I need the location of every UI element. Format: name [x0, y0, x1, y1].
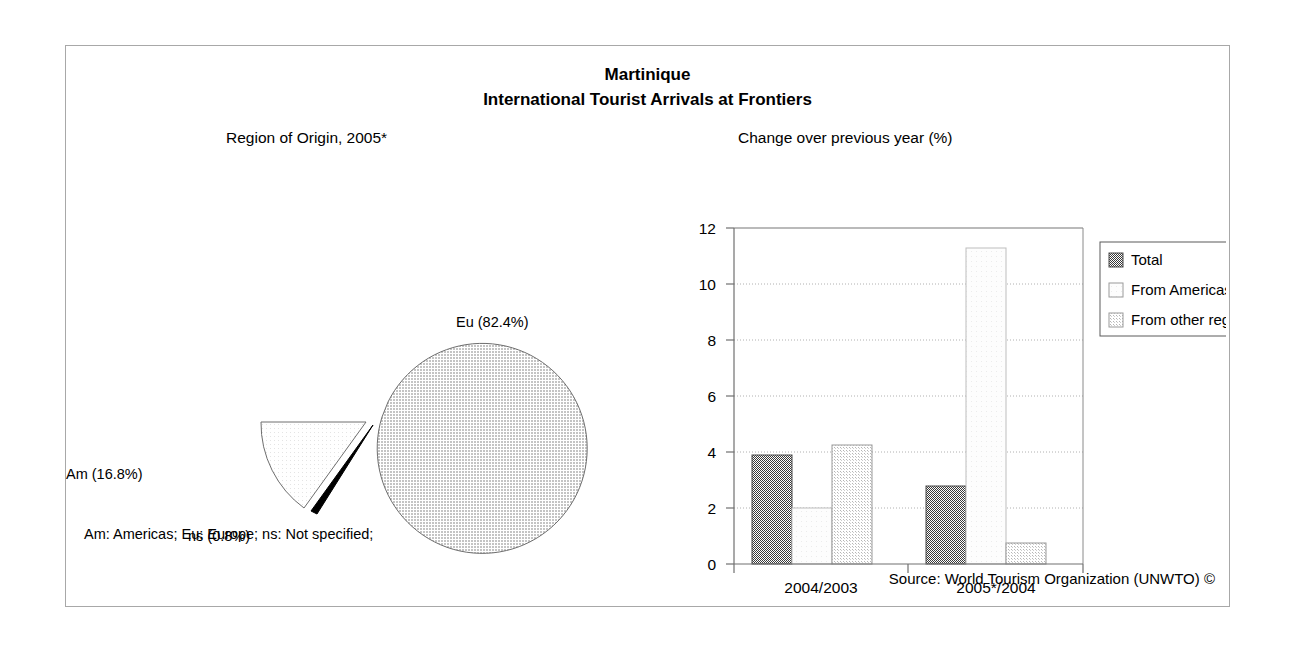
bar-chart-graphic: 0 2 4 6 8 10 12 2004/2003 2005*/2004 Tot…: [666, 156, 1226, 596]
pie-slice-eu: [377, 343, 587, 553]
y-axis-ticks: [726, 228, 734, 564]
bar-group-2004-2003: [752, 445, 872, 564]
pie-label-am: Am (16.8%): [66, 466, 143, 482]
chart-title-line-1: Martinique: [66, 65, 1229, 85]
legend-label-total: Total: [1131, 251, 1163, 268]
y-tick-label-6: 6: [707, 388, 716, 405]
legend-label-from-americas: From Americas: [1131, 281, 1226, 298]
bar-chart-panel: 0 2 4 6 8 10 12 2004/2003 2005*/2004 Tot…: [666, 156, 1226, 596]
y-tick-label-8: 8: [707, 332, 716, 349]
bar-group-2005-2004: [926, 248, 1046, 564]
chart-title-line-2: International Tourist Arrivals at Fronti…: [66, 90, 1229, 110]
y-tick-label-10: 10: [699, 276, 717, 293]
figure-frame: Martinique International Tourist Arrival…: [65, 45, 1230, 607]
y-tick-label-0: 0: [707, 556, 716, 573]
legend-swatch-from-americas: [1109, 283, 1123, 297]
y-tick-label-4: 4: [707, 444, 716, 461]
abbreviation-note: Am: Americas; Eu: Europe; ns: Not specif…: [84, 526, 373, 542]
source-note: Source: World Tourism Organization (UNWT…: [889, 570, 1215, 587]
x-category-label-1: 2004/2003: [784, 579, 857, 596]
pie-chart-graphic: [66, 156, 626, 556]
pie-chart-subtitle: Region of Origin, 2005*: [226, 129, 387, 147]
y-tick-label-2: 2: [707, 500, 716, 517]
bar-other-2005-2004: [1006, 543, 1046, 564]
pie-label-eu: Eu (82.4%): [456, 314, 529, 330]
legend-swatch-total: [1109, 253, 1123, 267]
pie-chart-panel: Eu (82.4%) Am (16.8%) ns (0.8%): [66, 156, 626, 556]
y-tick-label-12: 12: [699, 220, 716, 237]
bar-chart-subtitle: Change over previous year (%): [738, 129, 953, 147]
bar-americas-2005-2004: [966, 248, 1006, 564]
pie-slice-am: [261, 422, 366, 508]
legend-swatch-from-other-regions: [1109, 313, 1123, 327]
bar-americas-2004-2003: [792, 508, 832, 564]
chart-legend: Total From Americas From other regions: [1100, 242, 1226, 336]
legend-label-from-other-regions: From other regions: [1131, 311, 1226, 328]
bar-other-2004-2003: [832, 445, 872, 564]
bar-total-2005-2004: [926, 486, 966, 564]
bar-total-2004-2003: [752, 455, 792, 564]
